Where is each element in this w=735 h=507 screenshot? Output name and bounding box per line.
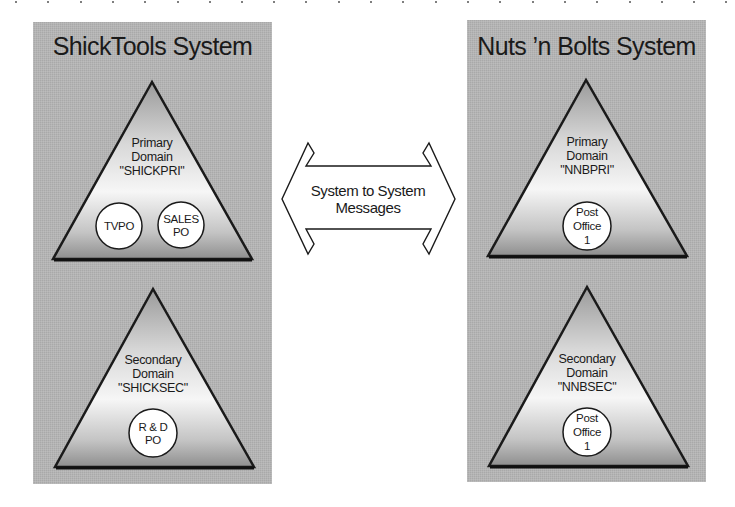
domain-diagram: ShickTools System Primary Domain "SHICKP… bbox=[0, 0, 735, 507]
domain-label-line2: Domain bbox=[566, 366, 608, 380]
system-to-system-connector: System to System Messages bbox=[282, 143, 455, 254]
post-office-label-line1: Post bbox=[576, 412, 599, 424]
domain-name: "SHICKPRI" bbox=[120, 164, 185, 178]
top-tick-marks bbox=[15, 1, 727, 3]
domain-label-line2: Domain bbox=[132, 367, 174, 381]
system-panel-nuts-n-bolts: Nuts ’n Bolts System Primary Domain "NNB… bbox=[467, 20, 706, 482]
domain-label-line1: Secondary bbox=[124, 353, 182, 367]
post-office-sales-po: SALES PO bbox=[158, 202, 204, 248]
domain-label-line1: Primary bbox=[567, 135, 609, 149]
domain-name: "NNBPRI" bbox=[560, 163, 614, 177]
domain-label-line2: Domain bbox=[131, 150, 173, 164]
post-office-1: Post Office 1 bbox=[563, 202, 611, 250]
post-office-label-line3: 1 bbox=[584, 234, 590, 246]
post-office-label-line2: Office bbox=[573, 426, 601, 438]
domain-label-line1: Secondary bbox=[558, 352, 616, 366]
domain-label-line1: Primary bbox=[132, 136, 174, 150]
system-title: Nuts ’n Bolts System bbox=[477, 32, 696, 60]
domain-name: "NNBSEC" bbox=[558, 380, 617, 394]
post-office-r-and-d-po: R & D PO bbox=[129, 409, 177, 457]
system-panel-shicktools: ShickTools System Primary Domain "SHICKP… bbox=[33, 22, 272, 484]
post-office-label-line1: R & D bbox=[138, 421, 167, 433]
post-office-label-line2: PO bbox=[173, 226, 189, 238]
post-office-circle bbox=[129, 409, 177, 457]
post-office-label-line1: SALES bbox=[163, 213, 199, 225]
post-office-1: Post Office 1 bbox=[563, 408, 611, 456]
post-office-circle bbox=[158, 202, 204, 248]
post-office-tvpo: TVPO bbox=[96, 203, 142, 249]
domain-name: "SHICKSEC" bbox=[118, 381, 188, 395]
system-title: ShickTools System bbox=[53, 32, 253, 60]
post-office-label-line1: Post bbox=[576, 206, 599, 218]
post-office-label-line2: Office bbox=[573, 220, 601, 232]
domain-label-line2: Domain bbox=[566, 149, 608, 163]
connector-label-line1: System to System bbox=[311, 182, 425, 199]
post-office-label-line2: PO bbox=[145, 434, 161, 446]
post-office-label: TVPO bbox=[104, 220, 134, 232]
connector-label-line2: Messages bbox=[335, 199, 400, 216]
post-office-label-line3: 1 bbox=[584, 440, 590, 452]
